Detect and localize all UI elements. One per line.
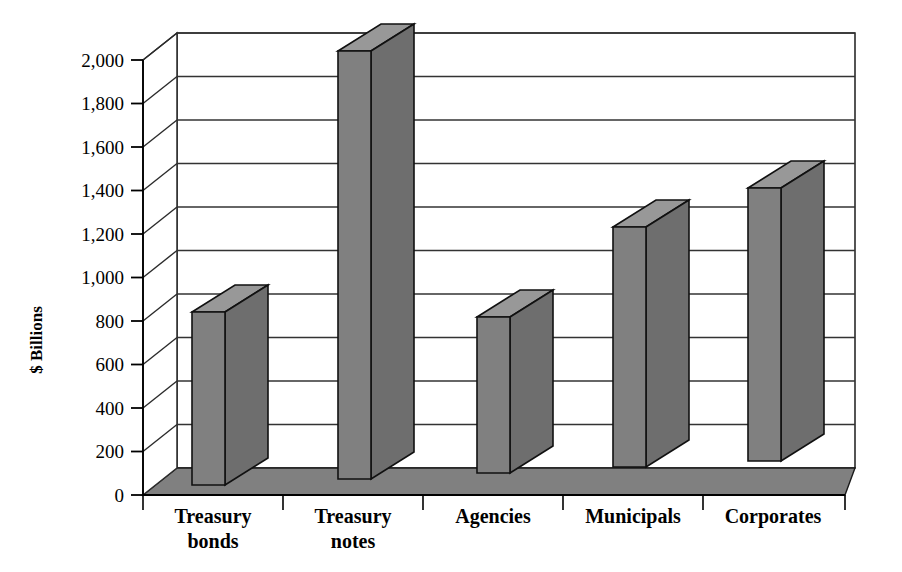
bar-chart: 2,000 1,800 1,600 1,400 1,200 1,000 800 … xyxy=(0,0,902,572)
bar-side-face xyxy=(646,200,689,467)
bar-side-face xyxy=(510,290,553,473)
cat-label-municipals: Municipals xyxy=(585,505,681,528)
bar-front-face xyxy=(477,317,510,473)
bar-treasury-bonds[interactable] xyxy=(192,285,268,485)
bar-front-face xyxy=(338,51,371,479)
chart-container: 2,000 1,800 1,600 1,400 1,200 1,000 800 … xyxy=(0,0,902,572)
ytick-label-800: 800 xyxy=(96,311,125,332)
ytick-label-1200: 1,200 xyxy=(81,224,124,245)
ytick-label-200: 200 xyxy=(96,441,125,462)
bar-front-face xyxy=(192,312,225,485)
cat-label-corporates: Corporates xyxy=(725,505,822,528)
cat-label-treasury-notes: Treasury xyxy=(314,505,391,528)
ytick-label-1600: 1,600 xyxy=(81,137,124,158)
ytick-label-1400: 1,400 xyxy=(81,180,124,201)
ytick-label-0: 0 xyxy=(115,485,125,506)
y-axis-tick-labels: 2,000 1,800 1,600 1,400 1,200 1,000 800 … xyxy=(81,50,124,506)
bar-agencies[interactable] xyxy=(477,290,553,473)
bar-side-face xyxy=(371,24,414,479)
ytick-label-600: 600 xyxy=(96,354,125,375)
cat-label-treasury-bonds-line2: bonds xyxy=(187,530,238,552)
bar-municipals[interactable] xyxy=(613,200,689,467)
bar-side-face xyxy=(781,161,824,461)
ytick-label-1000: 1,000 xyxy=(81,267,124,288)
cat-label-treasury-bonds: Treasury xyxy=(174,505,251,528)
ytick-label-400: 400 xyxy=(96,398,125,419)
ytick-label-1800: 1,800 xyxy=(81,93,124,114)
x-axis-category-labels: Treasury bonds Treasury notes Agencies M… xyxy=(174,505,821,552)
bar-corporates[interactable] xyxy=(748,161,824,461)
cat-label-treasury-notes-line2: notes xyxy=(331,530,376,552)
bar-treasury-notes[interactable] xyxy=(338,24,414,479)
bar-side-face xyxy=(225,285,268,485)
ytick-label-2000: 2,000 xyxy=(81,50,124,71)
cat-label-agencies: Agencies xyxy=(455,505,531,528)
y-axis-ticks xyxy=(131,60,143,495)
bar-front-face xyxy=(613,227,646,467)
bar-front-face xyxy=(748,188,781,461)
y-axis-title: $ Billions xyxy=(27,306,46,374)
